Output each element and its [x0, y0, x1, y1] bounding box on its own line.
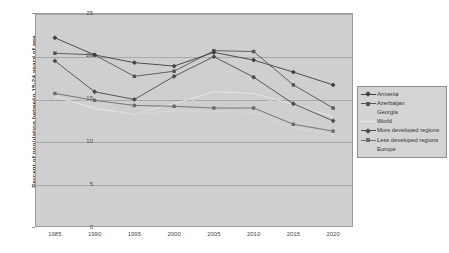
x-tick-label: 1985: [35, 231, 75, 237]
data-point: [211, 54, 216, 59]
data-point: [292, 123, 295, 126]
legend-swatch-icon: [360, 126, 377, 135]
data-point: [331, 129, 334, 132]
data-point: [172, 64, 177, 69]
data-point: [331, 106, 334, 109]
x-tick-label: 1990: [75, 231, 115, 237]
legend-label: World: [377, 117, 392, 126]
legend-item-world[interactable]: World: [360, 117, 443, 126]
legend-swatch-icon: [360, 99, 377, 108]
data-point: [53, 92, 56, 95]
chart-root: Percent of population between 15-24 year…: [0, 0, 449, 253]
series-line: [55, 92, 333, 117]
data-point: [132, 60, 137, 65]
data-point: [252, 50, 255, 53]
x-tick-label: 2000: [154, 231, 194, 237]
legend-item-europe[interactable]: Europe: [360, 145, 443, 154]
legend[interactable]: ArmeniaAzerbaijanGeorgiaWorldMore develo…: [357, 86, 447, 158]
data-point: [331, 118, 336, 123]
legend-label: Less developed regions: [377, 136, 438, 145]
legend-label: More developed regions: [377, 126, 439, 135]
legend-item-azerbaijan[interactable]: Azerbaijan: [360, 99, 443, 108]
data-point: [172, 105, 175, 108]
x-tick-label: 1995: [114, 231, 154, 237]
data-point: [292, 83, 295, 86]
legend-item-less-developed-regions[interactable]: Less developed regions: [360, 135, 443, 144]
data-point: [251, 58, 256, 63]
data-point: [291, 70, 296, 75]
legend-item-georgia[interactable]: Georgia: [360, 108, 443, 117]
legend-label: Georgia: [377, 108, 398, 117]
series-world: [55, 92, 333, 117]
data-point: [52, 35, 57, 40]
series-more-developed-regions: [52, 54, 335, 123]
legend-label: Armenia: [377, 90, 399, 99]
data-point: [132, 97, 137, 102]
legend-swatch-icon: [360, 117, 377, 126]
data-point: [133, 75, 136, 78]
legend-item-more-developed-regions[interactable]: More developed regions: [360, 126, 443, 135]
data-point: [133, 104, 136, 107]
legend-swatch-icon: [360, 136, 377, 145]
series-layer: [35, 13, 353, 227]
data-point: [331, 82, 336, 87]
legend-item-armenia[interactable]: Armenia: [360, 90, 443, 99]
series-line: [55, 93, 333, 131]
data-point: [53, 52, 56, 55]
data-point: [252, 106, 255, 109]
legend-label: Europe: [377, 145, 396, 154]
data-point: [172, 74, 177, 79]
y-tick-mark: [32, 227, 35, 228]
legend-swatch-icon: [360, 108, 377, 117]
data-point: [93, 99, 96, 102]
data-point: [172, 70, 175, 73]
legend-label: Azerbaijan: [377, 99, 404, 108]
legend-swatch-icon: [360, 90, 377, 99]
x-tick-label: 2005: [194, 231, 234, 237]
x-tick-label: 2020: [313, 231, 353, 237]
x-tick-label: 2015: [273, 231, 313, 237]
data-point: [251, 75, 256, 80]
x-tick-label: 2010: [234, 231, 274, 237]
data-point: [212, 106, 215, 109]
legend-swatch-icon: [360, 145, 377, 154]
